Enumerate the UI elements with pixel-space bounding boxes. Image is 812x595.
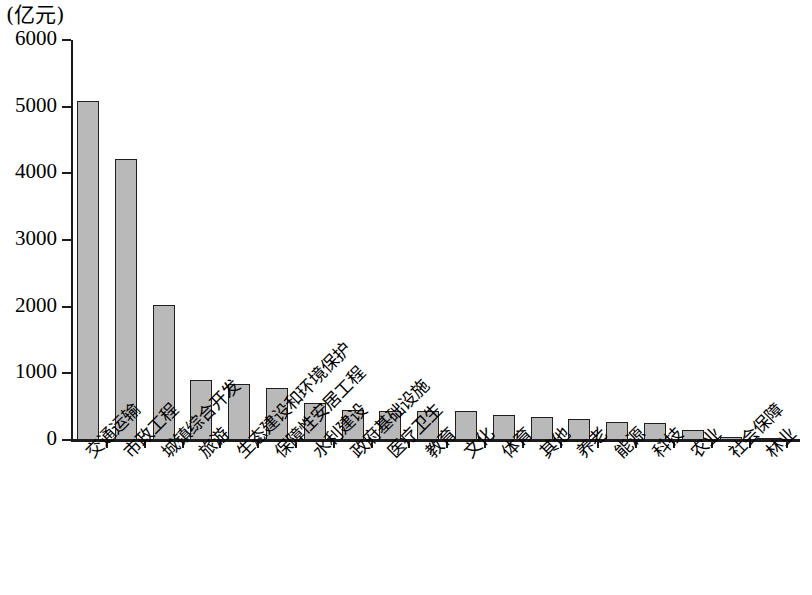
y-axis-tick: 6000 [62, 39, 71, 41]
y-axis-tick: 5000 [62, 106, 71, 108]
y-axis-tick-label: 6000 [15, 27, 57, 49]
y-axis-tick-label: 0 [47, 427, 58, 449]
y-axis-unit-label: (亿元) [6, 2, 64, 28]
y-axis-tick: 1000 [62, 372, 71, 374]
bar [115, 159, 137, 440]
y-axis-tick-label: 5000 [15, 94, 57, 116]
y-axis-line [71, 40, 73, 441]
y-axis-tick: 3000 [62, 239, 71, 241]
y-axis-tick-label: 4000 [15, 160, 57, 182]
y-axis-tick-label: 3000 [15, 227, 57, 249]
bar-chart: (亿元) 6000500040003000200010000 交通运输市政工程城… [0, 0, 812, 595]
bar [77, 101, 99, 440]
y-axis-tick: 2000 [62, 306, 71, 308]
y-axis-tick: 0 [62, 439, 71, 441]
plot-area: 6000500040003000200010000 [71, 40, 800, 440]
y-axis-tick: 4000 [62, 172, 71, 174]
y-axis-tick-label: 2000 [15, 294, 57, 316]
y-axis-tick-label: 1000 [15, 360, 57, 382]
